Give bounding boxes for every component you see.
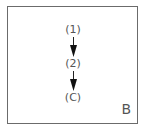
arrow-down-icon [70,71,77,91]
node-1: (1) [0,24,146,36]
node-2: (2) [0,58,146,70]
arrow-down-icon [70,37,77,57]
panel-label: B [121,101,131,117]
